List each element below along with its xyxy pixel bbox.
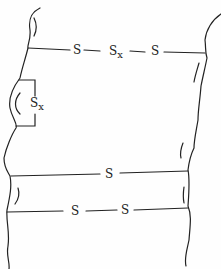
left-chain-mark <box>16 93 21 114</box>
sulfur-atom: S <box>120 204 130 216</box>
polysulfide-atom: Sx <box>29 97 45 112</box>
polysulfide-atom: Sx <box>108 45 124 60</box>
right-chain <box>185 14 221 266</box>
right-chain-mark <box>181 143 183 158</box>
sulfur-atom: S <box>70 205 80 217</box>
sulfur-atom: S <box>150 45 160 57</box>
sulfur-atom: S <box>72 44 82 56</box>
sulfur-atom: S <box>104 168 114 180</box>
crosslink-diagram: S Sx S Sx S S S <box>0 0 221 269</box>
left-chain-mark <box>15 188 19 204</box>
right-chain-mark <box>194 63 199 82</box>
left-chain <box>4 8 40 269</box>
chains-drawing <box>0 0 221 269</box>
right-chain-mark <box>183 187 184 203</box>
left-chain-mark <box>34 18 36 36</box>
